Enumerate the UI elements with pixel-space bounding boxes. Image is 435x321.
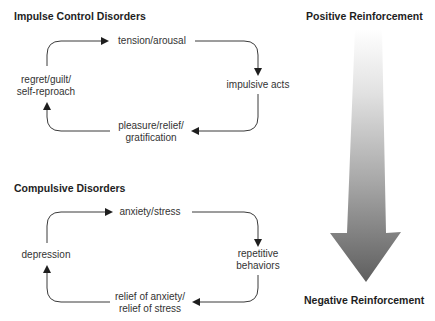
- node-regret-guilt-self-reproach: regret/guilt/ self-reproach: [2, 74, 90, 98]
- node-line: pleasure/relief/: [106, 120, 196, 132]
- arrowhead-right-icon: [101, 37, 109, 45]
- node-pleasure-relief-gratification: pleasure/relief/ gratification: [106, 120, 196, 144]
- node-line: gratification: [106, 132, 196, 144]
- node-depression: depression: [6, 249, 86, 261]
- node-line: relief of stress: [104, 303, 196, 315]
- node-repetitive-behaviors: repetitive behaviors: [218, 248, 298, 272]
- node-anxiety-stress: anxiety/stress: [112, 206, 188, 218]
- node-line: self-reproach: [2, 86, 90, 98]
- node-line: repetitive: [218, 248, 298, 260]
- connector-relief-to-depression: [47, 272, 110, 302]
- connector-pleasure-to-regret: [47, 109, 110, 131]
- node-relief-of-anxiety-stress: relief of anxiety/ relief of stress: [104, 291, 196, 315]
- node-line: relief of anxiety/: [104, 291, 196, 303]
- connector-impulsive-to-pleasure: [198, 94, 258, 131]
- connector-regret-to-tension: [47, 41, 102, 66]
- arrowhead-up-icon: [43, 102, 51, 110]
- reinforcement-gradient-arrow-icon: [330, 29, 401, 282]
- node-line: behaviors: [218, 260, 298, 272]
- connector-anxiety-to-repetitive: [192, 212, 258, 240]
- diagram-canvas: [0, 0, 435, 321]
- node-line: regret/guilt/: [2, 74, 90, 86]
- arrowhead-down-icon: [254, 239, 262, 247]
- node-tension-arousal: tension/arousal: [112, 35, 192, 47]
- connector-repetitive-to-relief: [199, 275, 258, 302]
- connector-tension-to-impulsive: [195, 41, 258, 69]
- arrowhead-down-icon: [254, 68, 262, 76]
- node-impulsive-acts: impulsive acts: [218, 79, 298, 91]
- connector-depression-to-anxiety: [47, 212, 106, 243]
- arrowhead-up-icon: [43, 265, 51, 273]
